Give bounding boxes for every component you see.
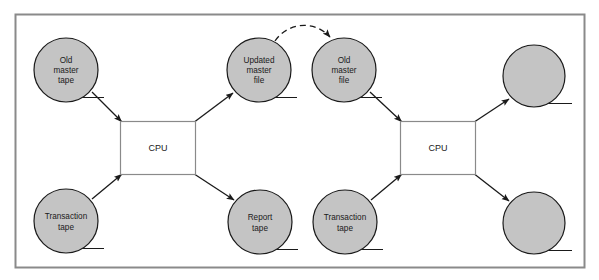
node-label-line: master: [246, 66, 271, 75]
node-transaction-tape-1[interactable]: Transaction tape: [34, 189, 98, 253]
node-label-line: file: [254, 76, 265, 85]
diagram-canvas: Old master tape Transaction tape Updated…: [0, 0, 599, 280]
node-label-line: tape: [252, 224, 268, 233]
node-updated-master-file[interactable]: Updated master file: [227, 38, 291, 102]
process-cpu-left[interactable]: CPU: [121, 122, 196, 175]
node-label-line: Report: [248, 213, 273, 222]
node-transaction-tape-2[interactable]: Transaction tape: [313, 190, 377, 254]
node-label-line: Updated: [244, 56, 275, 65]
node-old-master-tape[interactable]: Old master tape: [34, 38, 98, 102]
node-label-line: tape: [58, 223, 74, 232]
node-output-master-file[interactable]: [503, 45, 565, 107]
node-label-line: master: [331, 66, 356, 75]
process-label: CPU: [428, 143, 447, 153]
node-label-line: Old: [60, 56, 73, 65]
node-label-line: tape: [337, 224, 353, 233]
tape-drum-icon: [503, 45, 565, 107]
process-label: CPU: [148, 143, 167, 153]
process-cpu-right[interactable]: CPU: [401, 122, 476, 175]
node-label-line: tape: [58, 76, 74, 85]
batch-processing-diagram: Old master tape Transaction tape Updated…: [0, 0, 599, 280]
node-old-master-file[interactable]: Old master file: [312, 38, 376, 102]
diagram-frame: [16, 15, 585, 268]
node-label-line: master: [53, 66, 78, 75]
node-report-tape[interactable]: Report tape: [228, 190, 292, 254]
node-label-line: Transaction: [324, 213, 367, 222]
tape-drum-icon: [503, 192, 565, 254]
node-label-line: file: [339, 76, 350, 85]
node-label-line: Transaction: [45, 212, 88, 221]
node-output-report-tape[interactable]: [503, 192, 565, 254]
node-label-line: Old: [338, 56, 351, 65]
